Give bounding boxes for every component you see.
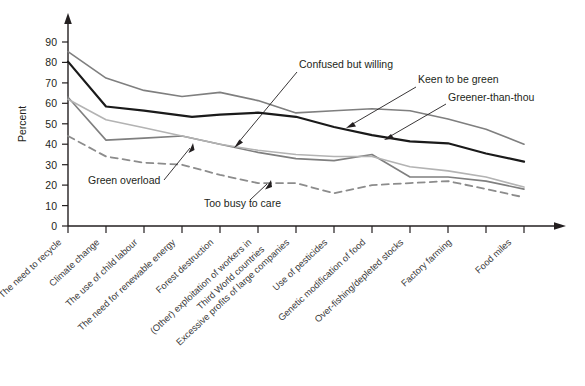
y-tick-label-70: 70: [45, 77, 57, 89]
x-axis-ticks: [68, 226, 524, 233]
line-chart-figure: 90 80 70 60 50 40 30 20 10 0 Percent The…: [0, 0, 585, 386]
x-category-label-2: The use of child labour: [64, 237, 140, 308]
y-axis-ticks: 90 80 70 60 50 40 30 20 10 0: [45, 36, 68, 232]
annotation-label-confused-but-willing: Confused but willing: [299, 58, 393, 70]
x-category-label-0: The need to recycle: [0, 237, 63, 300]
annotation-leader-keen-to-be-green: [351, 87, 416, 125]
y-tick-label-40: 40: [45, 138, 57, 150]
y-tick-label-60: 60: [45, 97, 57, 109]
annotation-label-greener-than-thou: Greener-than-thou: [448, 91, 535, 103]
x-category-label-11: Food miles: [473, 237, 513, 276]
y-tick-label-50: 50: [45, 118, 57, 130]
y-tick-label-80: 80: [45, 56, 57, 68]
x-axis-category-labels: The need to recycle Climate change The u…: [0, 237, 514, 347]
annotation-label-green-overload: Green overload: [88, 174, 161, 186]
y-tick-label-30: 30: [45, 159, 57, 171]
y-axis-arrowhead: [64, 13, 72, 24]
chart-annotations: Confused but willing Keen to be green Gr…: [88, 58, 535, 209]
annotation-leader-greener-than-thou: [389, 104, 446, 137]
y-tick-label-90: 90: [45, 36, 57, 48]
annotation-arrowhead-green-overload: [189, 143, 195, 153]
x-axis-arrowhead: [554, 222, 566, 230]
annotation-leader-green-overload: [164, 148, 190, 180]
annotation-label-keen-to-be-green: Keen to be green: [418, 73, 499, 85]
y-tick-label-0: 0: [51, 220, 57, 232]
annotation-leader-confused-but-willing: [238, 72, 297, 143]
y-tick-label-10: 10: [45, 200, 57, 212]
y-axis-title: Percent: [16, 106, 28, 142]
annotation-label-too-busy-to-care: Too busy to care: [204, 197, 281, 209]
x-category-label-10: Factory farming: [399, 237, 453, 288]
y-tick-label-20: 20: [45, 179, 57, 191]
